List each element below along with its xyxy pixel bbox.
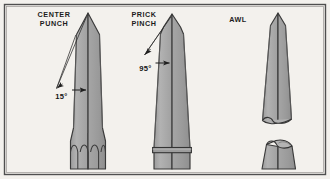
center-punch-angle-value: 15° [55,92,67,101]
prick-punch-label-line2: PINCH [131,19,156,28]
prick-punch-collar [153,148,192,153]
technical-illustration: CENTER PUNCH 15° PRICK PINCH 95° [0,0,330,179]
prick-punch-angle-value: 95° [139,64,151,73]
awl-lower-right-body [278,146,296,169]
awl-label-line1: AWL [229,15,247,24]
center-punch-label-line2: PUNCH [40,19,68,28]
